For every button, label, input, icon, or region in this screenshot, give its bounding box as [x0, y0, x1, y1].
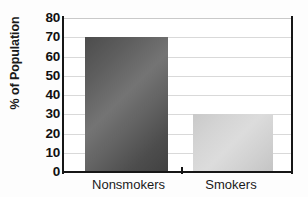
y-axis-tick-labels: 80 70 60 50 40 30 20 10 0 — [30, 18, 60, 172]
y-tick-label: 80 — [30, 10, 60, 26]
gridline-80 — [63, 18, 293, 19]
bar-smokers — [193, 114, 273, 172]
y-tick-label: 20 — [30, 126, 60, 142]
x-tick-label-smokers: Smokers — [181, 175, 281, 195]
y-tick-label: 10 — [30, 145, 60, 161]
y-tick-label: 60 — [30, 49, 60, 65]
x-tick-label-nonsmokers: Nonsmokers — [76, 175, 181, 195]
bar-chart: % of Population 80 70 60 50 40 30 20 10 … — [0, 0, 308, 197]
y-tick-label: 40 — [30, 87, 60, 103]
y-tick-label: 30 — [30, 106, 60, 122]
y-tick-label: 0 — [30, 164, 60, 180]
x-axis-line — [62, 171, 293, 173]
y-axis-line — [62, 16, 64, 174]
plot-area — [63, 18, 293, 172]
y-tick-label: 70 — [30, 29, 60, 45]
y-tick-label: 50 — [30, 68, 60, 84]
y-axis-title: % of Population — [8, 0, 28, 133]
plot-right-border — [291, 16, 293, 174]
x-tick-mark — [181, 167, 183, 174]
bar-nonsmokers — [85, 37, 168, 172]
